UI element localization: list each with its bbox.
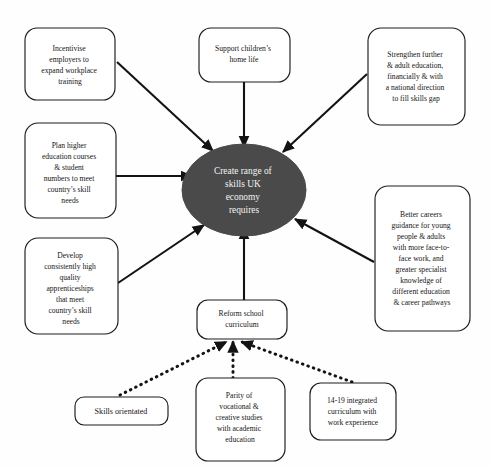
node-better-careers-guidance[interactable]: Better careers guidance for young people… xyxy=(375,186,470,331)
node-develop-apprenticeships[interactable]: Develop consistently high quality appren… xyxy=(25,238,118,334)
node-skills-orientated[interactable]: Skills orientated xyxy=(75,397,168,425)
node-center[interactable]: Create range of skills UK economy requir… xyxy=(182,144,306,236)
edge-integrated-curriculum-to-reform-school-curriculum xyxy=(242,342,352,382)
concept-map-diagram: Create range of skills UK economy requir… xyxy=(0,0,491,466)
center-ellipse-shape xyxy=(182,144,306,236)
node-integrated-curriculum[interactable]: 14-19 integrated curriculum with work ex… xyxy=(310,383,396,440)
node-reform-school-curriculum[interactable]: Reform school curriculum xyxy=(197,300,287,339)
node-support-children[interactable]: Support children’s home life xyxy=(199,28,290,82)
better-careers-guidance-label: Better careers guidance for young people… xyxy=(392,210,453,307)
edge-develop-apprenticeships-to-center xyxy=(118,225,204,283)
incentivise-employers-box xyxy=(25,28,115,100)
node-incentivise-employers[interactable]: Incentivise employers to expand workplac… xyxy=(25,28,115,100)
node-strengthen-further-education[interactable]: Strengthen further & adult education, fi… xyxy=(368,28,465,125)
integrated-curriculum-label: 14-19 integrated curriculum with work ex… xyxy=(327,396,379,427)
node-plan-higher-education[interactable]: Plan higher education courses & student … xyxy=(25,123,116,218)
develop-apprenticeships-label: Develop consistently high quality appren… xyxy=(44,251,98,326)
node-parity-vocational-creative[interactable]: Parity of vocational & creative studies … xyxy=(196,378,285,461)
edge-better-careers-guidance-to-center xyxy=(295,219,374,262)
skills-orientated-label: Skills orientated xyxy=(95,407,148,416)
edge-strengthen-further-education-to-center xyxy=(283,74,367,152)
edge-incentivise-employers-to-center xyxy=(117,62,213,151)
diagram-canvas: Create range of skills UK economy requir… xyxy=(0,0,491,466)
strengthen-further-education-label: Strengthen further & adult education, fi… xyxy=(386,50,447,103)
